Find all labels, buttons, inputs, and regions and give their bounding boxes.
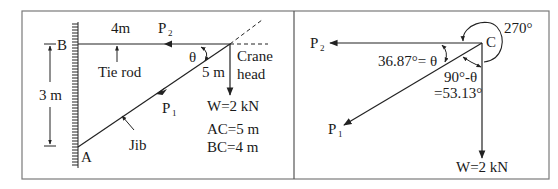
jib-label: Jib xyxy=(129,137,147,153)
tie-rod-length-label: 4m xyxy=(111,20,131,36)
jib-length-label: 5 m xyxy=(202,64,225,80)
p2-force-label: P xyxy=(310,35,318,51)
right-panel-force-diagram: C 270° P 2 36.87°= θ 90°-θ =53.13° P 1 W… xyxy=(310,20,533,175)
point-c-label: C xyxy=(486,34,496,50)
point-a-label: A xyxy=(81,149,92,165)
tie-rod-label: Tie rod xyxy=(98,64,142,80)
complement-value-label: =53.13° xyxy=(434,85,482,101)
wall-hatch xyxy=(72,22,78,168)
point-b-label: B xyxy=(57,37,67,53)
complement-angle-label: 90°-θ xyxy=(444,69,477,85)
p2-arrow-icon xyxy=(164,41,172,48)
bc-label: BC=4 m xyxy=(207,139,259,155)
theta-value-label: 36.87°= θ xyxy=(378,53,437,69)
p1-subscript: 1 xyxy=(172,108,177,118)
crane-diagram: B A 4m P 2 Tie rod 3 m θ 5 m Crane head … xyxy=(0,0,558,189)
p2-label: P xyxy=(158,20,166,36)
p2-force-subscript: 2 xyxy=(320,43,325,53)
theta-label: θ xyxy=(189,49,196,65)
ac-label: AC=5 m xyxy=(207,121,260,137)
height-label: 3 m xyxy=(39,87,62,103)
complement-arc xyxy=(463,57,481,67)
theta-arc xyxy=(201,47,207,61)
head-label: head xyxy=(237,66,266,82)
crane-label: Crane xyxy=(237,48,273,64)
weight-force-label: W=2 kN xyxy=(456,159,508,175)
p1-label: P xyxy=(162,100,170,116)
weight-label: W=2 kN xyxy=(207,98,259,114)
angle-270-label: 270° xyxy=(504,20,533,36)
angle-270-arc xyxy=(463,22,502,62)
left-panel-crane: B A 4m P 2 Tie rod 3 m θ 5 m Crane head … xyxy=(39,20,273,168)
theta-arc-right xyxy=(442,45,446,62)
p2-subscript: 2 xyxy=(168,28,173,38)
p1-force-label: P xyxy=(328,121,336,137)
p1-force-subscript: 1 xyxy=(338,129,343,139)
jib-pointer xyxy=(122,116,134,130)
